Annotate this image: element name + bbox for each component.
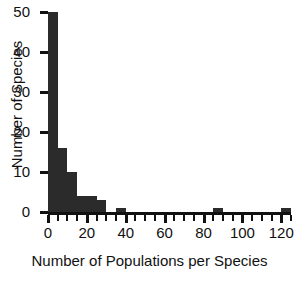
x-tick-major	[203, 215, 206, 223]
x-tick-minor	[290, 215, 292, 221]
x-tick-major	[164, 215, 167, 223]
y-tick: 20	[40, 131, 48, 134]
x-tick-major	[241, 215, 244, 223]
x-tick-minor	[251, 215, 253, 221]
x-tick-minor	[96, 215, 98, 221]
x-tick-label: 20	[79, 224, 96, 241]
x-tick-label: 120	[269, 224, 294, 241]
y-tick-label: 0	[22, 203, 30, 220]
x-tick-minor	[183, 215, 185, 221]
y-tick: 40	[40, 51, 48, 54]
x-tick-label: 0	[44, 224, 52, 241]
y-tick-label: 40	[13, 43, 30, 60]
plot-area: 01020304050 020406080100120	[48, 12, 291, 215]
x-axis-title: Number of Populations per Species	[0, 252, 299, 269]
y-tick-label: 30	[13, 83, 30, 100]
x-tick-label: 80	[195, 224, 212, 241]
x-tick-major	[86, 215, 89, 223]
y-tick-label: 10	[13, 163, 30, 180]
histogram-bar	[58, 148, 68, 212]
x-tick-minor	[232, 215, 234, 221]
x-tick-minor	[66, 215, 68, 221]
x-tick-minor	[105, 215, 107, 221]
x-axis-line	[48, 212, 291, 215]
y-tick-label: 50	[13, 3, 30, 20]
x-tick-minor	[115, 215, 117, 221]
x-tick-minor	[193, 215, 195, 221]
x-tick-minor	[212, 215, 214, 221]
x-tick-label: 100	[230, 224, 255, 241]
x-tick-minor	[144, 215, 146, 221]
x-tick-minor	[76, 215, 78, 221]
histogram-bar	[48, 12, 58, 212]
x-tick-minor	[134, 215, 136, 221]
histogram-bar	[213, 208, 223, 212]
x-tick-minor	[154, 215, 156, 221]
x-tick-major	[125, 215, 128, 223]
x-tick-major	[280, 215, 283, 223]
y-tick: 0	[40, 211, 48, 214]
y-tick-label: 20	[13, 123, 30, 140]
histogram-bar	[87, 196, 97, 212]
x-tick-minor	[261, 215, 263, 221]
y-tick: 30	[40, 91, 48, 94]
x-tick-minor	[271, 215, 273, 221]
x-tick-label: 60	[156, 224, 173, 241]
x-tick-minor	[57, 215, 59, 221]
histogram-bar	[77, 196, 87, 212]
x-tick-label: 40	[117, 224, 134, 241]
x-tick-minor	[222, 215, 224, 221]
histogram-bar	[97, 200, 107, 212]
x-tick-minor	[173, 215, 175, 221]
histogram-bar	[281, 208, 291, 212]
y-tick: 50	[40, 11, 48, 14]
x-tick-major	[47, 215, 50, 223]
histogram-figure: Number of Species 01020304050 0204060801…	[0, 0, 299, 281]
histogram-bar	[116, 208, 126, 212]
histogram-bar	[67, 172, 77, 212]
y-tick: 10	[40, 171, 48, 174]
